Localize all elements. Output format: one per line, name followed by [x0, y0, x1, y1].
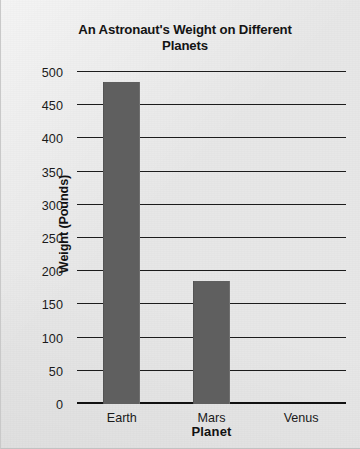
plot-area: 500450400350300250200150100500 EarthMars…: [77, 72, 346, 404]
x-axis-tick-label-earth: Earth: [107, 411, 137, 425]
chart-title-line-2: Planets: [35, 38, 335, 54]
y-axis-tick-label: 450: [42, 99, 63, 113]
y-axis-tick-label: 400: [42, 132, 63, 146]
gridline: [77, 71, 346, 72]
y-axis-title: Weight (Pounds): [57, 175, 71, 273]
chart-page: An Astronaut's Weight on Different Plane…: [0, 0, 360, 449]
x-axis-tick-label-mars: Mars: [198, 411, 226, 425]
chart-title-line-1: An Astronaut's Weight on Different: [35, 22, 335, 38]
y-axis-tick-label: 250: [42, 232, 63, 246]
y-axis-tick-label: 0: [56, 398, 63, 412]
y-axis-tick-label: 500: [42, 66, 63, 80]
y-axis-tick-label: 50: [49, 365, 63, 379]
y-axis-tick-label: 100: [42, 332, 63, 346]
chart-title: An Astronaut's Weight on Different Plane…: [35, 22, 335, 53]
x-axis-tick-label-venus: Venus: [284, 411, 319, 425]
x-axis-title: Planet: [77, 424, 346, 439]
y-axis-tick-label: 350: [42, 166, 63, 180]
y-axis-tick-label: 200: [42, 265, 63, 279]
y-axis-tick-label: 300: [42, 199, 63, 213]
bar-mars[interactable]: [193, 281, 230, 404]
bar-earth[interactable]: [103, 82, 140, 404]
y-axis-tick-label: 150: [42, 298, 63, 312]
